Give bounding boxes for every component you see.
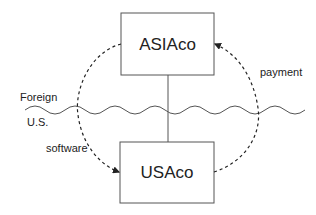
payment-label: payment	[260, 66, 302, 78]
payment-flow-arrow	[214, 44, 259, 172]
asiaco-label: ASIAco	[139, 35, 196, 54]
usaco-box[interactable]: USAco	[120, 142, 214, 203]
border-wave	[25, 106, 305, 114]
us-label: U.S.	[27, 116, 48, 128]
software-label: software	[46, 142, 88, 154]
transfer-diagram: ASIAco USAco Foreign U.S. software payme…	[0, 0, 316, 215]
asiaco-box[interactable]: ASIAco	[121, 13, 214, 75]
usaco-label: USAco	[141, 163, 194, 182]
foreign-label: Foreign	[20, 91, 57, 103]
